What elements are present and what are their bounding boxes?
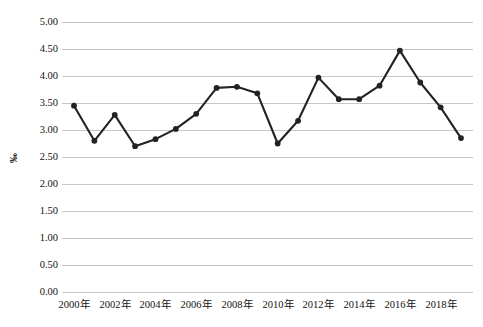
x-axis-tick-label: 2012年 xyxy=(303,298,334,312)
data-point-marker xyxy=(71,103,77,109)
x-axis-tick-label: 2006年 xyxy=(181,298,212,312)
x-axis-tick-label: 2002年 xyxy=(100,298,131,312)
data-point-marker xyxy=(417,80,423,86)
y-axis-tick-label: 3.50 xyxy=(18,97,58,109)
x-axis-tick-label: 2014年 xyxy=(344,298,375,312)
line-chart: ‰ 0.000.501.001.502.002.503.003.504.004.… xyxy=(0,0,483,327)
data-point-marker xyxy=(91,138,97,144)
gridline xyxy=(62,292,473,293)
x-axis-tick-labels: 2000年2002年2004年2006年2008年2010年2012年2014年… xyxy=(0,298,483,320)
data-point-marker xyxy=(397,48,403,54)
y-axis-tick-label: 5.00 xyxy=(18,16,58,28)
data-point-marker xyxy=(275,141,281,147)
y-axis-tick-label: 1.50 xyxy=(18,205,58,217)
data-point-marker xyxy=(458,135,464,141)
y-axis-tick-label: 4.50 xyxy=(18,43,58,55)
data-point-marker xyxy=(193,111,199,117)
y-axis-tick-label: 0.00 xyxy=(18,286,58,298)
data-point-marker xyxy=(214,85,220,91)
data-series-line xyxy=(62,22,473,292)
x-axis-tick-label: 2008年 xyxy=(222,298,253,312)
data-point-marker xyxy=(153,136,159,142)
y-axis-tick-label: 0.50 xyxy=(18,259,58,271)
data-point-marker xyxy=(254,90,260,96)
data-point-marker xyxy=(356,96,362,102)
data-point-marker xyxy=(295,118,301,124)
x-axis-tick-label: 2010年 xyxy=(263,298,294,312)
data-point-marker xyxy=(173,126,179,132)
y-axis-tick-label: 1.00 xyxy=(18,232,58,244)
y-axis-tick-label: 2.50 xyxy=(18,151,58,163)
x-axis-tick-label: 2004年 xyxy=(140,298,171,312)
data-point-marker xyxy=(316,75,322,81)
data-point-marker xyxy=(377,83,383,89)
x-axis-tick-label: 2000年 xyxy=(59,298,90,312)
data-point-marker xyxy=(112,112,118,118)
data-point-marker xyxy=(132,143,138,149)
data-point-marker xyxy=(234,84,240,90)
y-axis-tick-label: 2.00 xyxy=(18,178,58,190)
x-axis-tick-label: 2016年 xyxy=(385,298,416,312)
y-axis-tick-labels: 0.000.501.001.502.002.503.003.504.004.50… xyxy=(18,14,58,300)
y-axis-tick-label: 3.00 xyxy=(18,124,58,136)
data-point-marker xyxy=(438,104,444,110)
series-polyline xyxy=(74,51,461,147)
data-point-marker xyxy=(336,96,342,102)
x-axis-tick-label: 2018年 xyxy=(426,298,457,312)
plot-area xyxy=(62,22,473,292)
y-axis-tick-label: 4.00 xyxy=(18,70,58,82)
